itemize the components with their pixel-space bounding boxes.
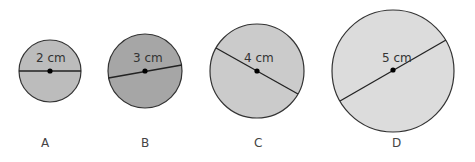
circle-b-center-dot [142,68,147,73]
circle-a: 2 cm A [19,40,81,150]
circles-diagram: 2 cm A 3 cm B 4 cm C 5 cm D [0,0,475,162]
circle-c-center-dot [254,68,259,73]
circle-a-diameter-label: 2 cm [36,51,66,65]
circle-c-diameter-label: 4 cm [244,51,274,65]
circle-d-caption: D [392,136,401,150]
circle-d-diameter-label: 5 cm [382,51,412,65]
circle-d: 5 cm D [332,10,454,150]
circle-c-caption: C [254,136,262,150]
circle-b-caption: B [141,136,149,150]
circle-a-caption: A [41,136,50,150]
circle-a-center-dot [47,68,52,73]
circle-c: 4 cm C [210,24,304,150]
circle-b-diameter-label: 3 cm [133,51,163,65]
circle-b: 3 cm B [108,34,182,150]
circle-d-center-dot [390,67,395,72]
